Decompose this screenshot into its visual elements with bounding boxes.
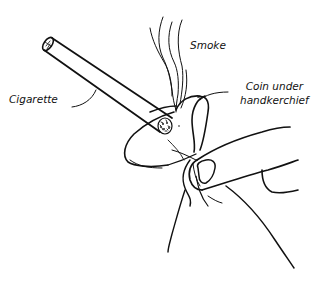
smoke-icon <box>150 17 187 112</box>
cigarette-coin-trick-drawing <box>0 0 325 287</box>
illustration-canvas: Smoke Cigarette Coin under handkerchief <box>0 0 325 287</box>
handkerchief-icon <box>125 96 209 252</box>
cigarette-icon <box>40 36 179 134</box>
coin-under-handkerchief-label: Coin under handkerchief <box>240 79 309 107</box>
coin-label-line2: handkerchief <box>240 93 309 107</box>
hand-icon <box>189 127 298 268</box>
coin-label-line1: Coin under <box>240 79 309 93</box>
cigarette-label: Cigarette <box>9 92 58 106</box>
smoke-label: Smoke <box>190 38 226 52</box>
